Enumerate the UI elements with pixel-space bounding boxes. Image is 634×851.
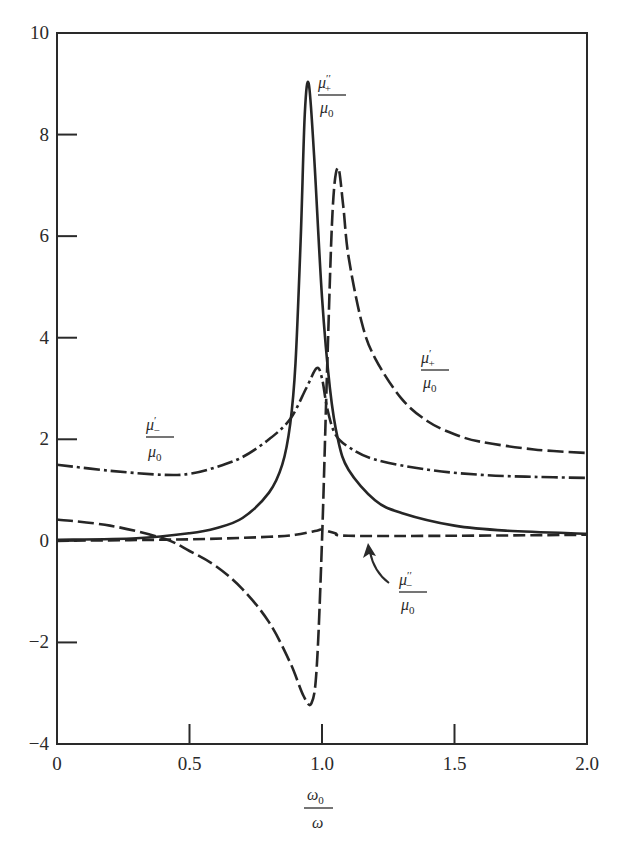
label-layer: μ′′+ μ0 μ′+ μ0 μ′− μ0 μ′′− μ0 ω0	[145, 72, 449, 831]
x-tick-label: 2.0	[575, 753, 599, 774]
svg-text:ω: ω	[312, 814, 323, 831]
series-line-0	[57, 82, 587, 540]
series-line-2	[57, 368, 587, 478]
y-tick-label: −4	[29, 733, 50, 754]
arrow-icon	[363, 543, 389, 583]
svg-text:ω0: ω0	[307, 786, 324, 806]
label-mu-pp-plus: μ′′+ μ0	[317, 72, 346, 119]
x-tick-label: 0	[52, 753, 62, 774]
label-mu-pp-minus: μ′′− μ0	[398, 569, 427, 616]
y-tick-label: 2	[40, 428, 50, 449]
svg-text:μ0: μ0	[319, 99, 334, 119]
x-tick-label: 1.5	[443, 753, 467, 774]
chart: −4−2024681000.51.01.52.0 μ′′+ μ0 μ′+ μ0 …	[0, 0, 634, 851]
y-tick-label: 8	[40, 124, 50, 145]
plot-frame	[57, 33, 587, 744]
svg-text:μ0: μ0	[422, 374, 437, 394]
y-tick-label: 0	[40, 530, 50, 551]
x-tick-label: 0.5	[178, 753, 202, 774]
y-tick-label: −2	[29, 631, 49, 652]
x-axis-label: ω0 ω	[304, 786, 333, 831]
label-mu-p-minus: μ′− μ0	[145, 414, 174, 463]
svg-text:μ0: μ0	[400, 596, 415, 616]
label-mu-p-plus: μ′+ μ0	[420, 347, 449, 394]
x-tick-label: 1.0	[310, 753, 334, 774]
svg-text:μ′−: μ′−	[145, 414, 160, 436]
svg-text:μ′′−: μ′′−	[398, 569, 412, 591]
y-tick-label: 10	[30, 22, 49, 43]
plot-border	[57, 33, 587, 744]
svg-text:μ0: μ0	[147, 443, 162, 463]
y-tick-label: 6	[40, 225, 50, 246]
svg-text:μ′+: μ′+	[420, 347, 435, 369]
series-layer	[57, 82, 587, 705]
svg-text:μ′′+: μ′′+	[317, 72, 331, 94]
series-line-1	[57, 168, 587, 706]
y-tick-label: 4	[40, 327, 50, 348]
